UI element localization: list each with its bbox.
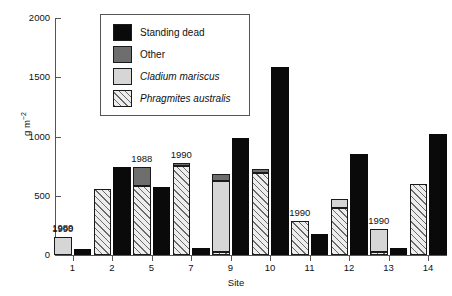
x-tick-label: 10 [255,263,285,273]
bar-segment [291,221,309,255]
y-tick-label: 1500 [8,72,50,82]
x-tick-mark [428,256,429,261]
bar-segment [173,166,191,255]
y-tick-label: 1000 [8,132,50,142]
legend-swatch-standing_dead [113,24,132,41]
y-tick-mark [55,137,61,138]
x-tick-mark [73,256,74,261]
bar-segment [331,208,349,255]
x-tick-mark [231,256,232,261]
bar-segment [252,169,270,173]
legend-box: Standing deadOtherCladium mariscusPhragm… [100,14,250,116]
figure-chart-biomass: g m−2 Site 0500100015002000 125791011121… [0,0,452,296]
bar-segment [390,248,408,255]
bar-segment [232,138,250,255]
bar-year-annotation: 1989 [43,223,83,233]
bar-segment [271,67,289,255]
y-tick-mark [55,196,61,197]
bar-segment [54,237,72,255]
y-tick-mark [55,18,61,19]
y-axis-label: g m−2 [20,94,32,154]
bar-segment [370,252,388,255]
x-tick-label: 11 [295,263,325,273]
bar-segment [133,186,151,255]
bar-segment [153,187,171,255]
bar-segment [113,167,131,255]
bar-segment [133,167,151,186]
legend-swatch-other [113,46,132,63]
bar-segment [192,248,210,255]
x-axis-label: Site [196,277,276,288]
legend-label-cladium: Cladium mariscus [140,70,219,83]
bar-segment [94,189,112,255]
x-tick-label: 1 [58,263,88,273]
x-tick-mark [349,256,350,261]
bar-segment [212,252,230,255]
x-tick-label: 9 [216,263,246,273]
x-tick-label: 2 [97,263,127,273]
bar-segment [74,249,92,255]
bar-segment [429,134,447,255]
bar-year-annotation: 1990 [359,216,399,226]
x-tick-mark [152,256,153,261]
x-tick-label: 5 [137,263,167,273]
x-tick-mark [191,256,192,261]
x-tick-label: 7 [176,263,206,273]
bar-segment [311,234,329,255]
legend-label-other: Other [140,48,165,61]
bar-year-annotation: 1990 [161,150,201,160]
bar-year-annotation: 1990 [280,208,320,218]
bar-segment [212,181,230,252]
bar-segment [173,163,191,166]
legend-label-phragmites: Phragmites australis [140,92,231,105]
y-tick-mark [55,255,61,256]
y-tick-mark [55,77,61,78]
legend-swatch-cladium [113,68,132,85]
x-tick-label: 14 [413,263,443,273]
legend-label-standing_dead: Standing dead [140,26,205,39]
x-tick-mark [310,256,311,261]
bar-segment [212,174,230,181]
bar-segment [410,184,428,255]
x-tick-mark [112,256,113,261]
bar-year-annotation: 1988 [122,154,162,164]
bar-segment [331,199,349,208]
legend-swatch-phragmites [113,90,132,107]
x-tick-label: 13 [374,263,404,273]
x-tick-label: 12 [334,263,364,273]
bar-segment [350,154,368,255]
x-tick-mark [270,256,271,261]
y-tick-label: 2000 [8,13,50,23]
bar-segment [370,229,388,252]
y-tick-label: 500 [8,191,50,201]
x-tick-mark [389,256,390,261]
y-tick-label: 0 [8,250,50,260]
bar-segment [252,173,270,255]
